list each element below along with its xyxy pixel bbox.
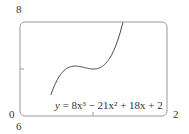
- equation-annotation: y = 8x³ − 21x² + 18x + 2: [55, 99, 163, 111]
- y-max-label: 8: [16, 4, 22, 15]
- x-max-label: 2: [173, 109, 179, 120]
- cubic-curve: [51, 22, 123, 95]
- x-min-label: 0: [9, 109, 15, 120]
- plot-area: [0, 0, 189, 134]
- y-min-label: 6: [16, 121, 22, 132]
